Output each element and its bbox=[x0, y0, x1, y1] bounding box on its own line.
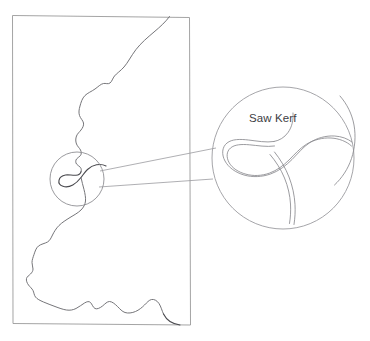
cut-line-upper bbox=[76, 17, 170, 172]
kerf-loop-outer bbox=[223, 136, 352, 177]
diagram-root: Saw Kerf bbox=[0, 0, 370, 341]
kerf-outgoing-left-rail bbox=[270, 155, 291, 224]
kerf-loop-inner bbox=[227, 138, 351, 176]
saw-kerf-figure: Saw Kerf bbox=[0, 0, 370, 341]
kerf-outgoing-right-rail bbox=[275, 152, 296, 225]
cut-line-exit-tail bbox=[164, 314, 181, 325]
workpiece-rectangle bbox=[13, 16, 191, 326]
saw-kerf-label: Saw Kerf bbox=[249, 112, 297, 124]
cut-line-lower bbox=[26, 178, 163, 315]
detail-leader-line-lower bbox=[99, 179, 213, 187]
detail-leader-line-upper bbox=[100, 148, 216, 171]
detail-source-circle bbox=[50, 152, 104, 206]
detail-magnified-circle bbox=[212, 87, 354, 229]
